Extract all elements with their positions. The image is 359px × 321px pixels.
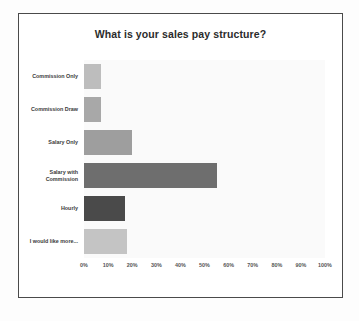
x-axis-tick: 90% [288,262,314,268]
bar-row [84,93,325,126]
x-axis-tick: 80% [264,262,290,268]
chart-card: What is your sales pay structure? Commis… [18,13,343,298]
x-axis-tick: 20% [119,262,145,268]
y-axis-label: Salary with Commission [18,169,78,183]
bar-row [84,159,325,192]
x-axis-tick: 70% [240,262,266,268]
x-axis-tick: 30% [143,262,169,268]
x-axis-tick: 60% [216,262,242,268]
y-axis-label: Hourly [18,205,78,212]
bar-row [84,126,325,159]
y-axis-label: Commission Only [18,73,78,80]
plot-area [84,60,325,258]
bar [84,130,132,155]
bar [84,229,127,254]
x-axis-tick: 40% [167,262,193,268]
bar-row [84,225,325,258]
page-root: What is your sales pay structure? Commis… [0,0,359,321]
bar-row [84,192,325,225]
bar-row [84,60,325,93]
chart-title: What is your sales pay structure? [19,28,342,40]
y-axis-label: I would like more... [18,238,78,245]
bar [84,163,217,188]
bar [84,97,101,122]
x-axis-tick: 100% [312,262,338,268]
y-axis-label: Commission Draw [18,106,78,113]
y-axis-label: Salary Only [18,139,78,146]
x-axis-tick: 0% [71,262,97,268]
y-axis-category-labels: Commission OnlyCommission DrawSalary Onl… [19,60,81,258]
x-axis-tick: 50% [192,262,218,268]
bar [84,196,125,221]
x-axis-tick: 10% [95,262,121,268]
bar [84,64,101,89]
x-axis-tick-labels: 0%10%20%30%40%50%60%70%80%90%100% [84,262,325,276]
